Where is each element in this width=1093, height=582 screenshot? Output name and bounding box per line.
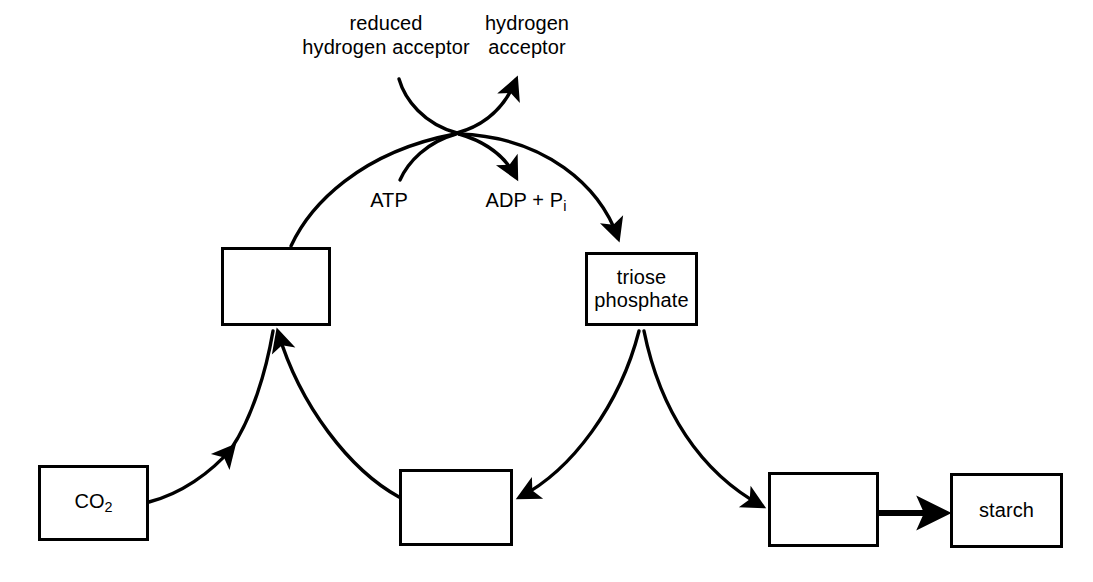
edge-reduced-acceptor-in xyxy=(399,79,457,133)
node-label-triose-phosphate: triose phosphate xyxy=(594,266,688,312)
edge-crossing-to-triose xyxy=(459,134,618,238)
node-box-blank-upper-left[interactable] xyxy=(221,247,331,326)
node-label-carbon-dioxide: CO2 xyxy=(74,490,112,516)
edge-triose-to-glucose xyxy=(644,331,762,506)
label-reduced-hydrogen-acceptor: reduced hydrogen acceptor xyxy=(295,11,477,59)
node-label-starch: starch xyxy=(979,499,1034,522)
co2-subscript: 2 xyxy=(105,499,113,515)
node-box-blank-bottom-right[interactable] xyxy=(768,472,879,547)
node-box-blank-bottom-middle[interactable] xyxy=(399,469,513,546)
adp-subscript: i xyxy=(563,198,566,214)
node-box-carbon-dioxide[interactable]: CO2 xyxy=(38,465,149,541)
edge-triose-to-gp xyxy=(520,331,639,497)
edge-co2-to-rubp-seg1 xyxy=(149,447,233,502)
label-atp: ATP xyxy=(352,188,426,212)
edge-gp-to-rubp xyxy=(278,332,399,497)
label-hydrogen-acceptor: hydrogen acceptor xyxy=(472,11,582,59)
label-adp-pi: ADP + Pi xyxy=(462,188,590,215)
diagram-connectors xyxy=(0,0,1093,582)
calvin-cycle-diagram: triose phosphate CO2 starch reduced hydr… xyxy=(0,0,1093,582)
edge-hydrogen-acceptor-out xyxy=(457,80,516,133)
edge-co2-to-rubp-seg2 xyxy=(231,331,273,449)
node-box-triose-phosphate[interactable]: triose phosphate xyxy=(585,252,698,326)
adp-text: ADP + P xyxy=(486,189,564,211)
node-box-starch[interactable]: starch xyxy=(950,473,1063,548)
co2-text: CO xyxy=(74,490,104,512)
